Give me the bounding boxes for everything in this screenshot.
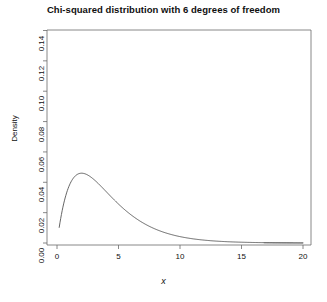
x-tick-label: 10 xyxy=(167,252,193,261)
x-tick-label: 0 xyxy=(44,252,70,261)
y-tick-label: 0.04 xyxy=(37,182,46,208)
axis-lines xyxy=(43,30,311,249)
chart-figure: Chi-squared distribution with 6 degrees … xyxy=(0,0,327,302)
x-tick-label: 5 xyxy=(106,252,132,261)
y-tick-label: 0.12 xyxy=(37,60,46,86)
y-tick-label: 0.02 xyxy=(37,212,46,238)
y-tick-label: 0.10 xyxy=(37,91,46,117)
y-tick-label: 0.14 xyxy=(37,30,46,56)
y-tick-label: 0.08 xyxy=(37,121,46,147)
x-axis-title: x xyxy=(0,276,327,286)
x-tick-label: 20 xyxy=(290,252,316,261)
y-tick-label: 0.06 xyxy=(37,151,46,177)
y-tick-label: 0.00 xyxy=(37,243,46,269)
x-tick-label: 15 xyxy=(229,252,255,261)
density-curve xyxy=(59,173,303,243)
y-axis-title: Density xyxy=(10,89,19,169)
